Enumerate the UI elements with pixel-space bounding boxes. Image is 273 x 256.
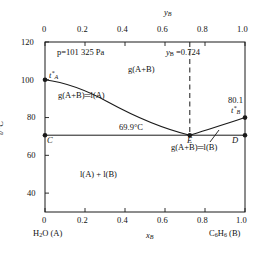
top-tick-4: 0.8 bbox=[197, 25, 208, 34]
leader-line-vapour-liquid-b bbox=[210, 130, 219, 142]
region-label-vapour-liquid-a: g(A+B)═l(A) bbox=[58, 91, 105, 100]
dew-curve-water-branch bbox=[45, 80, 190, 135]
x-tick-0: 0 bbox=[42, 216, 46, 225]
marker-t-star-b bbox=[243, 115, 248, 120]
y-tick-40: 40 bbox=[27, 189, 36, 198]
x-tick-4: 0.8 bbox=[197, 216, 208, 225]
phase-diagram-figure: yB 0 0.2 0.4 0.6 0.8 1.0 t/°C 120 100 80… bbox=[0, 0, 273, 256]
eutectic-temperature-annotation: 69.9°C bbox=[119, 123, 143, 132]
point-label-d: D bbox=[232, 136, 238, 145]
marker-point-d bbox=[243, 133, 248, 138]
region-label-vapour: g(A+B) bbox=[128, 65, 155, 74]
region-label-two-liquids: l(A) + l(B) bbox=[80, 170, 117, 179]
point-label-t-star-b: t*B bbox=[231, 105, 240, 115]
x-tick-3: 0.6 bbox=[157, 216, 168, 225]
bottom-axis-ticks bbox=[45, 208, 245, 212]
y-tick-60: 60 bbox=[27, 151, 36, 160]
top-tick-2: 0.4 bbox=[117, 25, 128, 34]
x-axis-right-species: C6H6 (B) bbox=[209, 229, 240, 238]
top-tick-5: 1.0 bbox=[237, 25, 248, 34]
point-label-e: E bbox=[187, 136, 192, 145]
benzene-boiling-point-annotation: 80.1 bbox=[228, 96, 243, 105]
y-tick-120: 120 bbox=[21, 38, 34, 47]
marker-t-star-a bbox=[43, 78, 48, 83]
x-axis-left-species: H2O (A) bbox=[33, 229, 62, 238]
x-tick-2: 0.4 bbox=[117, 216, 128, 225]
point-label-t-star-a: t*A bbox=[49, 70, 58, 80]
y-axis-label: t/°C bbox=[0, 121, 5, 135]
x-axis-label: xB bbox=[146, 231, 154, 240]
point-label-c: C bbox=[47, 136, 53, 145]
top-axis-ticks bbox=[45, 42, 245, 46]
y-tick-80: 80 bbox=[27, 113, 36, 122]
top-tick-1: 0.2 bbox=[77, 25, 88, 34]
top-tick-0: 0 bbox=[42, 25, 46, 34]
eutectic-composition-annotation: yB =0.724 bbox=[166, 48, 200, 57]
top-tick-3: 0.6 bbox=[157, 25, 168, 34]
y-tick-100: 100 bbox=[21, 76, 34, 85]
region-label-vapour-liquid-b: g(A+B)═l(B) bbox=[171, 143, 217, 152]
x-tick-1: 0.2 bbox=[77, 216, 88, 225]
pressure-annotation: p=101 325 Pa bbox=[57, 48, 104, 57]
left-axis-ticks bbox=[45, 42, 49, 193]
x-tick-5: 1.0 bbox=[236, 216, 247, 225]
top-axis-label: yB bbox=[164, 8, 172, 17]
